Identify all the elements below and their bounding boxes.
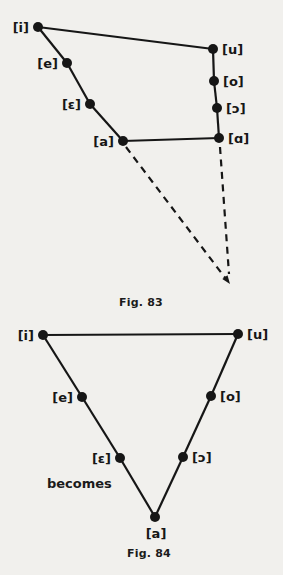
fig83-vowel-label-i: [i]: [13, 20, 29, 35]
fig84-vowel-label-i: [i]: [18, 328, 34, 343]
fig84-vowel-dot-u: [233, 329, 243, 339]
fig83-vowel-label-a: [a]: [93, 134, 114, 149]
fig84-vowel-label-a: [a]: [146, 526, 167, 541]
fig83-vowel-dot-u: [208, 44, 218, 54]
fig84-vowel-label-eps: [ɛ]: [92, 451, 111, 466]
fig83-edge-a-alpha: [123, 138, 219, 141]
fig83-vowel-dot-o: [209, 76, 219, 86]
fig83-vowel-label-alpha: [ɑ]: [228, 131, 249, 146]
fig83-vowel-dot-eps: [85, 99, 95, 109]
fig84-edge-e-eps: [82, 397, 120, 458]
fig84-edge-u-o: [211, 334, 238, 396]
fig83-vowel-label-open_o: [ɔ]: [226, 101, 246, 116]
fig84-vowel-label-o: [o]: [220, 389, 241, 404]
fig84-vowel-dot-i: [38, 330, 48, 340]
fig83-vowel-label-eps: [ɛ]: [62, 97, 81, 112]
fig83-caption: Fig. 83: [96, 296, 186, 309]
fig83-dashed-arrow-line-1: [220, 147, 229, 274]
fig83-dashed-arrow-line-0: [126, 147, 226, 279]
fig83-vowel-dot-i: [33, 22, 43, 32]
fig84-vowel-label-open_o: [ɔ]: [192, 450, 212, 465]
fig83-vowel-dot-a: [118, 136, 128, 146]
fig84-edge-eps-a: [120, 458, 155, 517]
becomes-label: becomes: [47, 476, 112, 491]
fig83-vowel-label-o: [o]: [223, 74, 244, 89]
fig84-edge-o-open_o: [183, 396, 211, 457]
fig84-edge-open_o-a: [155, 457, 183, 517]
fig84-vowel-dot-open_o: [178, 452, 188, 462]
vowel-diagrams-svg: [i][e][ɛ][a][u][o][ɔ][ɑ][i][e][ɛ][u][o][…: [0, 0, 283, 575]
fig84-vowel-dot-eps: [115, 453, 125, 463]
fig84-vowel-dot-e: [77, 392, 87, 402]
fig83-edge-i-u: [38, 27, 213, 49]
scanned-book-page: [i][e][ɛ][a][u][o][ɔ][ɑ][i][e][ɛ][u][o][…: [0, 0, 283, 575]
fig84-vowel-label-u: [u]: [247, 327, 268, 342]
fig84-edge-i-e: [43, 335, 82, 397]
fig84-vowel-dot-o: [206, 391, 216, 401]
fig83-arrowhead-icon: [222, 275, 230, 284]
fig83-vowel-dot-open_o: [212, 103, 222, 113]
fig83-vowel-label-e: [e]: [37, 56, 58, 71]
fig83-vowel-dot-alpha: [214, 133, 224, 143]
fig83-vowel-dot-e: [62, 58, 72, 68]
fig84-vowel-label-e: [e]: [52, 390, 73, 405]
fig83-vowel-label-u: [u]: [222, 42, 243, 57]
fig84-caption: Fig. 84: [104, 547, 194, 560]
fig84-edge-i-u: [43, 334, 238, 335]
fig84-vowel-dot-a: [150, 512, 160, 522]
